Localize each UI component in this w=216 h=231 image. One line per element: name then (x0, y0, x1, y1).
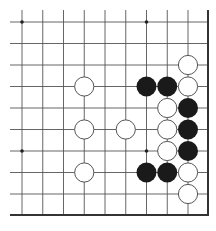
grid-lines (10, 10, 208, 215)
white-stone-icon (178, 55, 197, 74)
black-stone-icon (178, 98, 198, 118)
white-stone-icon (116, 120, 135, 139)
white-stone-icon (75, 77, 94, 96)
star-point-icon (20, 149, 24, 153)
board-edges (10, 10, 209, 216)
white-stone-icon (178, 77, 197, 96)
white-stone-icon (158, 120, 177, 139)
white-stone-icon (178, 163, 197, 182)
go-board (0, 0, 216, 231)
black-stone-icon (157, 163, 177, 183)
white-stone-icon (178, 184, 197, 203)
white-stone-icon (158, 141, 177, 160)
black-stone-icon (157, 77, 177, 97)
black-stone-icon (137, 163, 157, 183)
star-point-icon (145, 20, 149, 24)
black-stone-icon (137, 77, 157, 97)
white-stone-icon (75, 163, 94, 182)
black-stone-icon (178, 120, 198, 140)
star-point-icon (20, 20, 24, 24)
black-stone-icon (178, 141, 198, 161)
white-stone-icon (158, 98, 177, 117)
white-stone-icon (75, 120, 94, 139)
star-point-icon (145, 149, 149, 153)
